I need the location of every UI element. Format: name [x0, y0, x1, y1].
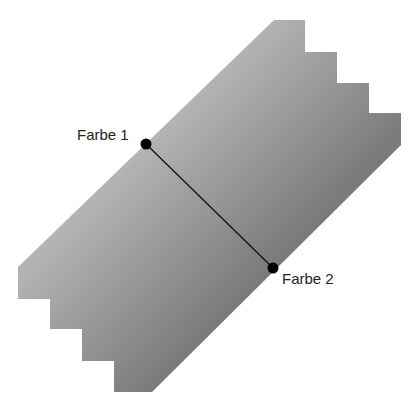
color-stop-1-dot[interactable]: [141, 139, 152, 150]
color-stop-2-label: Farbe 2: [282, 270, 334, 287]
color-stop-1-label: Farbe 1: [77, 126, 129, 143]
color-stop-2-dot[interactable]: [268, 263, 279, 274]
gradient-diagram: Farbe 1 Farbe 2: [0, 0, 419, 407]
